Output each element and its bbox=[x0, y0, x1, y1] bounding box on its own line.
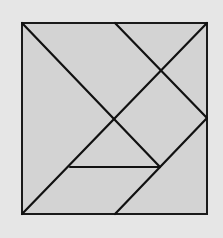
tangram-diagram bbox=[0, 0, 223, 238]
